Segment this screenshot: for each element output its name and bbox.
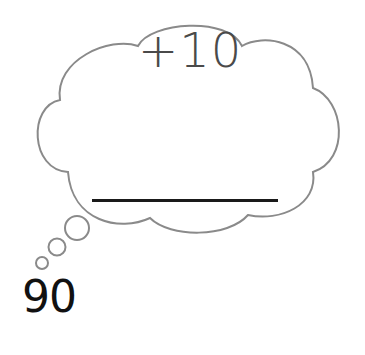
start-number: 90 <box>22 272 82 322</box>
answer-blank-line[interactable] <box>92 199 278 202</box>
thought-bubble-large <box>65 216 89 240</box>
thought-bubble-medium <box>49 239 66 256</box>
operation-text: +10 <box>138 22 230 78</box>
thought-bubble-small <box>36 257 48 269</box>
